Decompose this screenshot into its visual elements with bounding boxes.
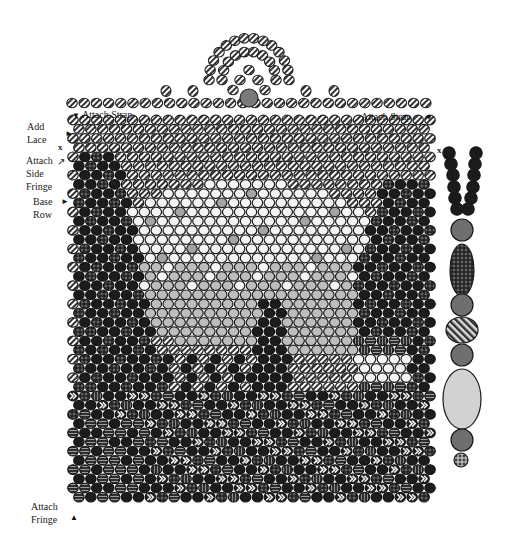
base-row-arrow-icon: ► [61, 198, 69, 206]
x-marker-left: x [58, 141, 63, 154]
x-marker-right: x [437, 144, 442, 157]
bead-pattern-diagram [0, 0, 507, 541]
attach-fringe-arrow-icon: ▲ [70, 514, 78, 522]
attach-side-fringe-arrow-icon: ↗ [57, 158, 65, 166]
add-lace-arrow-icon: ► [65, 130, 73, 138]
attach-strap-right-label: Attach Strap [361, 110, 411, 123]
attach-side-fringe-label: Attach Side Fringe [26, 154, 53, 193]
strap-loop [161, 34, 339, 107]
add-lace-label: Add Lace [27, 120, 46, 146]
attach-fringe-label: Attach Fringe [31, 500, 58, 526]
base-row-label: Base Row [33, 195, 52, 221]
attach-strap-right-arrow-icon: ▼ [425, 114, 433, 122]
side-fringe-right-arrow-icon: ↖ [443, 155, 451, 163]
fringe-strand [443, 147, 482, 467]
bead-grid [67, 98, 436, 502]
attach-strap-left-arrow-icon: ▼ [72, 112, 80, 120]
attach-strap-left-label: Attach Strap [82, 108, 132, 121]
